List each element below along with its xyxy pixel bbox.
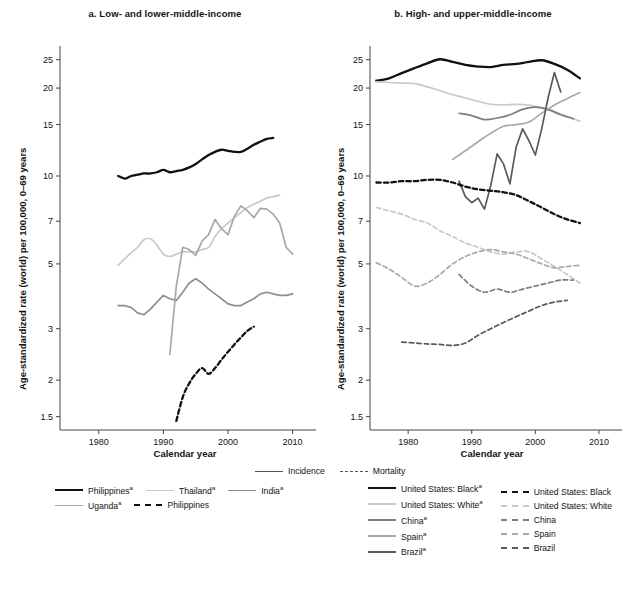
x-tick-label: 1990 xyxy=(462,437,482,447)
series-line xyxy=(402,300,567,345)
legend-item-label: China xyxy=(534,516,556,525)
series-line xyxy=(170,206,293,355)
legend-item[interactable]: Spaina xyxy=(368,531,483,541)
legend-measure-type: Incidence Mortality xyxy=(255,467,405,476)
legend-swatch-india-solid xyxy=(228,490,256,491)
legend-item[interactable]: United States: Whitea xyxy=(368,499,483,509)
legend-item[interactable]: Brazila xyxy=(368,546,483,556)
legend-incidence: Incidence xyxy=(255,467,325,476)
legend-swatch-brazil-solid xyxy=(368,551,396,553)
series-line xyxy=(376,59,579,80)
legend-incidence-column: United States: BlackaUnited States: Whit… xyxy=(368,483,483,562)
legend-item-label: Brazil xyxy=(534,544,556,553)
y-tick-label: 7 xyxy=(358,216,363,226)
y-tick-label: 5 xyxy=(48,259,53,269)
x-tick-label: 1990 xyxy=(153,437,173,447)
legend-mortality: Mortality xyxy=(340,467,405,476)
legend-swatch-united-states-black-solid xyxy=(368,487,396,489)
legend-item[interactable]: Ugandaa xyxy=(55,500,121,510)
series-line xyxy=(459,274,573,292)
legend-item-label: Thailanda xyxy=(179,485,215,495)
panel-b-x-axis-label: Calendar year xyxy=(372,448,612,459)
series-line xyxy=(176,327,254,421)
legend-item[interactable]: United States: White xyxy=(501,502,612,511)
series-line xyxy=(118,138,273,179)
panel-a-x-axis-label: Calendar year xyxy=(60,448,310,459)
y-tick-label: 3 xyxy=(48,324,53,334)
y-tick-label: 2 xyxy=(48,375,53,385)
y-tick-label: 25 xyxy=(353,55,363,65)
x-tick-label: 2010 xyxy=(283,437,303,447)
legend-swatch-spain-dashed xyxy=(501,533,529,535)
legend-item[interactable]: Thailanda xyxy=(146,485,215,495)
series-line xyxy=(118,195,280,265)
legend-item-label: Philippines xyxy=(167,501,209,510)
series-line xyxy=(376,82,579,121)
y-tick-label: 20 xyxy=(353,83,363,93)
legend-swatch-united-states-black-dashed xyxy=(501,491,529,493)
figure-root: a. Low- and lower-middle-income 25201510… xyxy=(0,0,628,594)
legend-swatch-philippines-solid xyxy=(55,489,83,491)
y-tick-label: 10 xyxy=(353,171,363,181)
legend-item[interactable]: Brazil xyxy=(501,544,612,553)
panel-a-y-axis-label: Age-standardized rate (world) per 100,00… xyxy=(17,148,28,390)
y-tick-label: 5 xyxy=(358,259,363,269)
legend-item-label: Philippinesa xyxy=(88,485,133,495)
legend-swatch-united-states-white-dashed xyxy=(501,505,529,507)
legend-item[interactable]: United States: Black xyxy=(501,488,612,497)
series-line xyxy=(118,279,292,315)
panel-a-plot: 2520151075321.51980199020002010 xyxy=(0,0,330,470)
legend-mortality-label: Mortality xyxy=(373,467,405,476)
panel-low-income: a. Low- and lower-middle-income 25201510… xyxy=(0,0,330,470)
legend-item-label: United States: White xyxy=(534,502,612,511)
legend-item[interactable]: Indiaa xyxy=(228,485,283,495)
series-line xyxy=(459,107,573,119)
legend-swatch-spain-solid xyxy=(368,535,396,537)
y-tick-label: 25 xyxy=(43,55,53,65)
y-tick-label: 3 xyxy=(358,324,363,334)
legend-item-label: Ugandaa xyxy=(88,500,121,510)
legend-row: UgandaaPhilippines xyxy=(55,500,320,510)
legend-swatch-thailand-solid xyxy=(146,490,174,491)
panel-b-plot: 2520151075321.51980199020002010 xyxy=(318,0,628,470)
legend-item-label: United States: Blacka xyxy=(401,483,482,493)
legend-item-label: Spaina xyxy=(401,531,426,541)
legend-panel-a: PhilippinesaThailandaIndiaaUgandaaPhilip… xyxy=(55,485,320,515)
legend-item-label: Indiaa xyxy=(261,485,283,495)
y-tick-label: 15 xyxy=(353,120,363,130)
legend-item[interactable]: Philippinesa xyxy=(55,485,133,495)
y-tick-label: 1.5 xyxy=(350,412,363,422)
legend-item[interactable]: United States: Blacka xyxy=(368,483,483,493)
legend-item-label: Spain xyxy=(534,530,556,539)
legend-swatch-united-states-white-solid xyxy=(368,503,396,505)
legend-swatch-china-solid xyxy=(368,519,396,521)
series-line xyxy=(376,250,579,287)
y-tick-label: 1.5 xyxy=(40,412,53,422)
legend-swatch-uganda-solid xyxy=(55,505,83,506)
legend-row: PhilippinesaThailandaIndiaa xyxy=(55,485,320,495)
panel-b-y-axis-label: Age-standardized rate (world) per 100,00… xyxy=(335,148,346,390)
legend-item-label: United States: Black xyxy=(534,488,611,497)
y-tick-label: 10 xyxy=(43,171,53,181)
legend-swatch-brazil-dashed xyxy=(501,547,529,549)
y-tick-label: 7 xyxy=(48,216,53,226)
legend-item[interactable]: Philippines xyxy=(134,501,209,510)
legend-incidence-label: Incidence xyxy=(288,467,325,476)
legend-mortality-column: United States: BlackUnited States: White… xyxy=(501,488,612,558)
x-tick-label: 2010 xyxy=(589,437,609,447)
legend-columns: United States: BlackaUnited States: Whit… xyxy=(368,483,626,562)
legend-panel-b: United States: BlackaUnited States: Whit… xyxy=(368,483,626,567)
legend-swatch-china-dashed xyxy=(501,519,529,521)
x-tick-label: 2000 xyxy=(525,437,545,447)
legend-item-label: United States: Whitea xyxy=(401,499,483,509)
y-tick-label: 2 xyxy=(358,375,363,385)
x-tick-label: 1980 xyxy=(89,437,109,447)
y-tick-label: 15 xyxy=(43,120,53,130)
panel-high-income: b. High- and upper-middle-income 2520151… xyxy=(318,0,628,470)
mortality-line-swatch xyxy=(340,471,368,472)
legend-item[interactable]: Chinaa xyxy=(368,515,483,525)
incidence-line-swatch xyxy=(255,471,283,472)
legend-item[interactable]: Spain xyxy=(501,530,612,539)
x-tick-label: 2000 xyxy=(218,437,238,447)
legend-item[interactable]: China xyxy=(501,516,612,525)
